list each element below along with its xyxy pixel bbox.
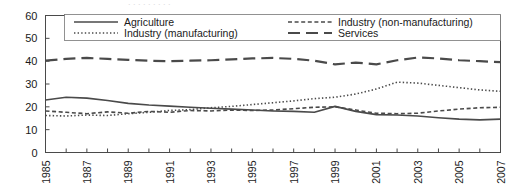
x-tick-label-1997: 1997: [288, 160, 300, 184]
x-tick-label-1989: 1989: [122, 160, 134, 184]
chart-container: . . . . . . . . . 0102030405060 19851987…: [0, 0, 516, 192]
series-line-industry-non-manufacturing: [46, 107, 501, 114]
series-lines: [46, 58, 501, 120]
x-axis: 1985198719891991199319951997199920012003…: [40, 149, 507, 184]
x-tick-label-1993: 1993: [205, 160, 217, 184]
chart-legend: Agriculture Industry (manufacturing) Ind…: [65, 15, 501, 41]
y-tick-label-20: 20: [25, 101, 37, 113]
legend-label-industry-manufacturing: Industry (manufacturing): [124, 27, 238, 39]
y-tick-label-0: 0: [31, 147, 37, 159]
x-tick-label-2003: 2003: [412, 160, 424, 184]
x-tick-label-2005: 2005: [453, 160, 465, 184]
series-line-services: [46, 58, 501, 65]
y-tick-label-30: 30: [25, 78, 37, 90]
y-tick-label-10: 10: [25, 124, 37, 136]
y-tick-label-60: 60: [25, 10, 37, 22]
x-tick-label-2007: 2007: [495, 160, 507, 184]
clipped-header-text: . . . . . . . . .: [128, 0, 171, 7]
svg-text:. . . . . . . . .: . . . . . . . . .: [128, 0, 171, 7]
x-tick-label-1987: 1987: [81, 160, 93, 184]
x-tick-label-1999: 1999: [329, 160, 341, 184]
x-tick-label-2001: 2001: [370, 160, 382, 184]
line-chart: . . . . . . . . . 0102030405060 19851987…: [0, 0, 516, 192]
legend-label-services: Services: [338, 27, 378, 39]
series-line-agriculture: [46, 97, 501, 120]
x-tick-label-1991: 1991: [164, 160, 176, 184]
y-tick-label-50: 50: [25, 32, 37, 44]
x-tick-label-1985: 1985: [40, 160, 52, 184]
x-tick-label-1995: 1995: [246, 160, 258, 184]
y-tick-label-40: 40: [25, 55, 37, 67]
